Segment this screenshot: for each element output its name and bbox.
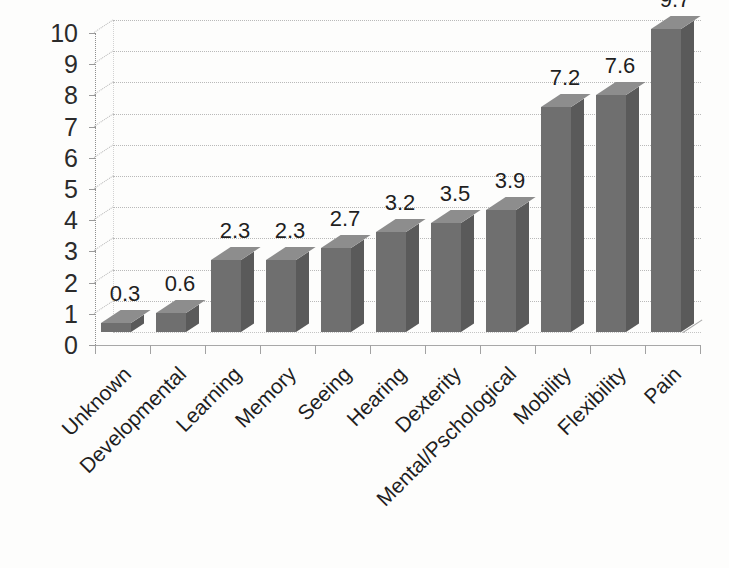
bar-front-face — [431, 223, 461, 332]
y-tick-label: 7 — [38, 114, 78, 139]
bar-side-face — [241, 252, 254, 332]
y-tick-label: 1 — [38, 301, 78, 326]
y-tick-label: 3 — [38, 239, 78, 264]
bar-front-face — [651, 29, 681, 332]
bar-side-face — [681, 21, 694, 332]
bar-value-label: 7.2 — [550, 65, 581, 91]
bar[interactable] — [596, 95, 626, 332]
bar[interactable] — [486, 210, 516, 332]
bar[interactable] — [321, 248, 351, 332]
y-tick-label: 10 — [38, 21, 78, 46]
bar-value-label: 9.7 — [660, 0, 691, 13]
bar-front-face — [486, 210, 516, 332]
bar-front-face — [211, 260, 241, 332]
bar-value-label: 7.6 — [605, 53, 636, 79]
bar-front-face — [376, 232, 406, 332]
bar-value-label: 2.3 — [220, 218, 251, 244]
bar-front-face — [541, 107, 571, 332]
x-tick-mark — [205, 345, 206, 354]
x-axis-line — [95, 345, 701, 346]
bar-value-label: 2.3 — [275, 218, 306, 244]
bar[interactable] — [211, 260, 241, 332]
y-tick-label: 6 — [38, 145, 78, 170]
bar-value-label: 3.2 — [385, 190, 416, 216]
y-tick-label: 5 — [38, 177, 78, 202]
bar[interactable] — [266, 260, 296, 332]
bar-front-face — [266, 260, 296, 332]
bar-side-face — [516, 202, 529, 332]
y-tick-label: 8 — [38, 83, 78, 108]
bar[interactable] — [156, 313, 186, 332]
bar-side-face — [461, 214, 474, 332]
bar-value-label: 0.6 — [165, 271, 196, 297]
bar[interactable] — [101, 323, 131, 332]
bar-front-face — [101, 323, 131, 332]
x-tick-mark — [425, 345, 426, 354]
bar-value-label: 3.9 — [495, 168, 526, 194]
bar-front-face — [596, 95, 626, 332]
x-tick-mark — [480, 345, 481, 354]
y-tick-label: 4 — [38, 208, 78, 233]
x-axis-label-text: Pain — [639, 362, 686, 409]
x-tick-mark — [315, 345, 316, 354]
x-tick-mark — [590, 345, 591, 354]
bar-side-face — [571, 99, 584, 332]
y-tick-label: 9 — [38, 52, 78, 77]
bar-chart: 012345678910 0.30.62.32.32.73.23.53.97.2… — [0, 0, 729, 568]
bar-value-label: 2.7 — [330, 206, 361, 232]
y-tick-label: 2 — [38, 270, 78, 295]
bar[interactable] — [541, 107, 571, 332]
bar[interactable] — [651, 29, 681, 332]
x-tick-mark — [95, 345, 96, 354]
bar-front-face — [156, 313, 186, 332]
bar[interactable] — [431, 223, 461, 332]
gridline-horizontal — [113, 20, 701, 21]
x-axis-label: Pain — [639, 362, 686, 409]
bar-side-face — [626, 86, 639, 332]
bar-side-face — [296, 252, 309, 332]
bar-value-label: 3.5 — [440, 181, 471, 207]
gridline-perspective-edge — [95, 20, 114, 33]
bar-side-face — [351, 239, 364, 332]
x-tick-mark — [370, 345, 371, 354]
x-tick-mark — [150, 345, 151, 354]
x-tick-mark — [700, 345, 701, 354]
y-tick-label: 0 — [38, 333, 78, 358]
bar-value-label: 0.3 — [110, 281, 141, 307]
x-tick-mark — [535, 345, 536, 354]
x-tick-mark — [260, 345, 261, 354]
bars-layer: 0.30.62.32.32.73.23.53.97.27.69.7 — [95, 33, 710, 345]
bar-front-face — [321, 248, 351, 332]
bar-side-face — [406, 224, 419, 332]
bar[interactable] — [376, 232, 406, 332]
x-tick-mark — [645, 345, 646, 354]
